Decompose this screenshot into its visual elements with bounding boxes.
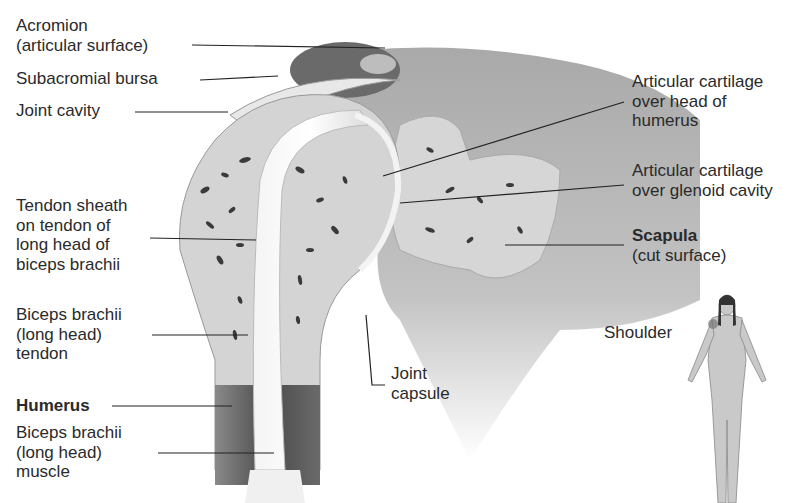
label-biceps-muscle: Biceps brachii (long head) muscle: [16, 423, 122, 482]
label-humerus: Humerus: [16, 396, 90, 416]
label-subacromial-bursa: Subacromial bursa: [16, 69, 158, 89]
label-scapula: Scapula (cut surface): [632, 226, 726, 265]
label-biceps-tendon: Biceps brachii (long head) tendon: [16, 305, 122, 364]
shoulder-joint-diagram: Acromion (articular surface) Subacromial…: [0, 0, 804, 503]
label-joint-capsule: Joint capsule: [391, 364, 450, 403]
label-joint-cavity: Joint cavity: [16, 101, 100, 121]
label-shoulder: Shoulder: [604, 323, 672, 343]
shoulder-highlight: [708, 319, 718, 329]
label-tendon-sheath: Tendon sheath on tendon of long head of …: [16, 196, 128, 274]
label-cartilage-glenoid: Articular cartilage over glenoid cavity: [632, 161, 773, 200]
label-acromion: Acromion (articular surface): [16, 16, 148, 55]
label-cartilage-humerus: Articular cartilage over head of humerus: [632, 72, 763, 131]
